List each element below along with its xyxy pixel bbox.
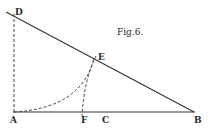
figure-6-diagram: D E A F C B Fig.6. [0, 0, 208, 128]
arc-EF-dashed [82, 56, 96, 116]
label-F: F [81, 115, 88, 125]
label-E: E [98, 52, 105, 62]
arc-AE-dashed [14, 58, 94, 112]
line-DB [6, 12, 194, 112]
label-C: C [102, 115, 109, 125]
label-D: D [15, 7, 23, 17]
label-B: B [194, 115, 202, 125]
label-A: A [9, 115, 18, 125]
figure-caption: Fig.6. [117, 27, 143, 37]
